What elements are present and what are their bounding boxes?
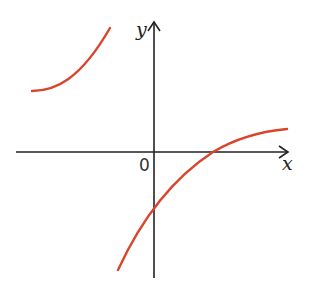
curve-right-branch <box>118 129 287 270</box>
graph-canvas: y x 0 <box>0 0 311 289</box>
curve-left-branch <box>32 28 110 91</box>
x-axis-label: x <box>282 152 293 174</box>
origin-label: 0 <box>139 155 150 175</box>
y-axis-label: y <box>135 18 147 40</box>
function-graph: y x 0 <box>0 0 311 289</box>
